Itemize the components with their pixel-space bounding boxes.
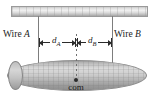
dimension-a-subscript: A xyxy=(57,40,61,47)
ceiling-hatch-texture xyxy=(12,7,147,16)
wire-b-line xyxy=(112,16,113,63)
dimension-a-label: dA xyxy=(50,35,62,49)
dimension-b-left-tick xyxy=(77,38,78,47)
physics-diagram: com dA dB Wire A Wire B xyxy=(0,0,155,99)
dimension-a-right-tick xyxy=(75,38,76,47)
dimension-b-label: dB xyxy=(86,35,98,49)
dimension-a-left-tick xyxy=(39,38,40,47)
wire-a-label: Wire A xyxy=(3,28,30,40)
dimension-b-subscript: B xyxy=(93,40,97,47)
wire-b-label: Wire B xyxy=(114,28,141,40)
rod-left-end-cap xyxy=(8,61,23,90)
dimension-b-right-tick xyxy=(111,38,112,47)
ceiling-beam xyxy=(11,6,148,17)
center-of-mass-label: com xyxy=(61,82,91,92)
